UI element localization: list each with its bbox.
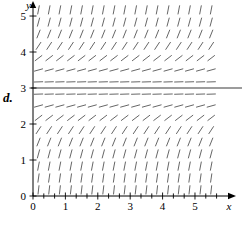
y-tick-label-4: 4 — [21, 46, 27, 58]
axis-ticks — [30, 16, 217, 199]
x-tick-label-4: 4 — [160, 200, 166, 212]
x-tick-label-3: 3 — [127, 200, 133, 212]
part-label: d. — [3, 91, 13, 104]
y-tick-label-3: 3 — [21, 82, 27, 94]
direction-field-segments — [34, 5, 216, 194]
x-axis-name: x — [226, 200, 232, 212]
x-tick-label-5: 5 — [192, 200, 198, 212]
y-axis-name: y — [25, 0, 31, 11]
y-tick-label-5: 5 — [21, 10, 27, 22]
y-tick-label-0: 0 — [21, 190, 27, 202]
x-tick-label-1: 1 — [63, 200, 69, 212]
y-tick-label-1: 1 — [21, 154, 27, 166]
x-tick-label-0: 0 — [30, 200, 36, 212]
y-tick-label-2: 2 — [21, 118, 27, 130]
x-tick-label-2: 2 — [95, 200, 101, 212]
slope-field-figure: 012345012345xy d. — [0, 0, 242, 231]
slope-field-plot: 012345012345xy — [0, 0, 242, 231]
